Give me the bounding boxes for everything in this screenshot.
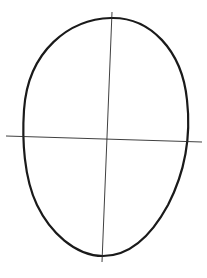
head-sketch-canvas xyxy=(0,0,207,278)
